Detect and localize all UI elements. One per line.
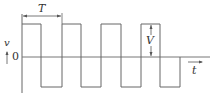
amplitude-label: V bbox=[146, 35, 154, 46]
origin-label: 0 bbox=[12, 51, 19, 62]
y-axis-label: v bbox=[4, 38, 10, 48]
square-wave-diagram bbox=[0, 0, 216, 97]
x-axis-label: t bbox=[192, 65, 196, 76]
amplitude-arrow-bottom-head bbox=[150, 52, 153, 56]
period-arrow-right-head bbox=[57, 15, 61, 18]
period-arrow-left-head bbox=[23, 15, 27, 18]
amplitude-arrow-top-head bbox=[150, 25, 153, 29]
period-label: T bbox=[38, 3, 45, 14]
square-wave bbox=[22, 24, 180, 87]
